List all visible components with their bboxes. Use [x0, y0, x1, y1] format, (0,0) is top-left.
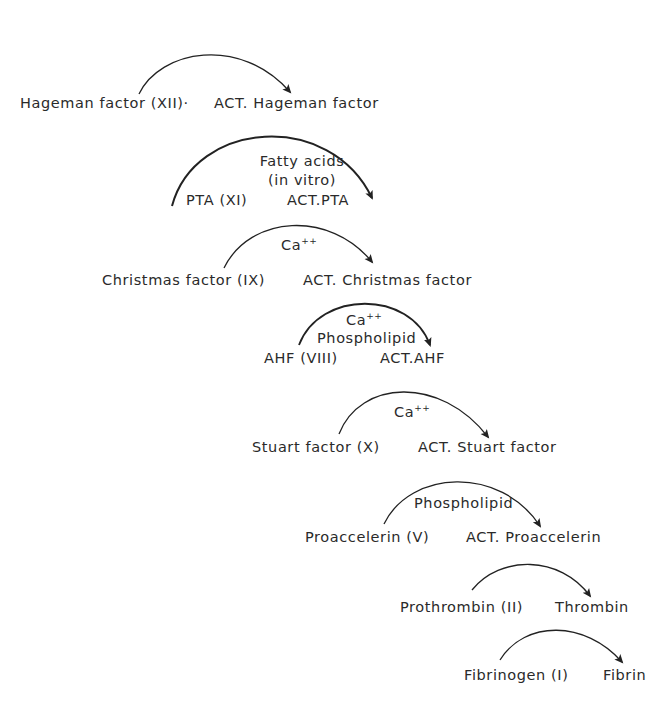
- product-v: ACT. Proaccelerin: [466, 530, 601, 545]
- substrate-ii: Prothrombin (II): [400, 600, 523, 615]
- product-xii: ACT. Hageman factor: [214, 96, 379, 111]
- substrate-ix: Christmas factor (IX): [102, 273, 265, 288]
- cofactor-xi-1: Fatty acids: [242, 154, 362, 169]
- product-i: Fibrin: [603, 668, 646, 683]
- product-ix: ACT. Christmas factor: [303, 273, 472, 288]
- cofactor-viii-ca: Ca++: [346, 312, 383, 328]
- cofactor-ix: Ca++: [281, 237, 318, 253]
- substrate-viii: AHF (VIII): [264, 351, 338, 366]
- substrate-x: Stuart factor (X): [252, 440, 380, 455]
- product-viii: ACT.AHF: [380, 351, 445, 366]
- arrow-ii: [472, 564, 590, 596]
- cofactor-x: Ca++: [394, 404, 431, 420]
- substrate-xii: Hageman factor (XII)·: [20, 96, 189, 111]
- product-xi: ACT.PTA: [287, 193, 349, 208]
- arrow-xii: [139, 55, 290, 94]
- substrate-i: Fibrinogen (I): [464, 668, 568, 683]
- substrate-xi: PTA (XI): [186, 193, 247, 208]
- product-ii: Thrombin: [555, 600, 629, 615]
- substrate-v: Proaccelerin (V): [305, 530, 429, 545]
- product-x: ACT. Stuart factor: [418, 440, 557, 455]
- cofactor-xi-2: (in vitro): [242, 173, 362, 188]
- cofactor-viii-phospholipid: Phospholipid: [317, 331, 416, 346]
- cofactor-v: Phospholipid: [414, 496, 513, 511]
- arrow-i: [500, 630, 622, 662]
